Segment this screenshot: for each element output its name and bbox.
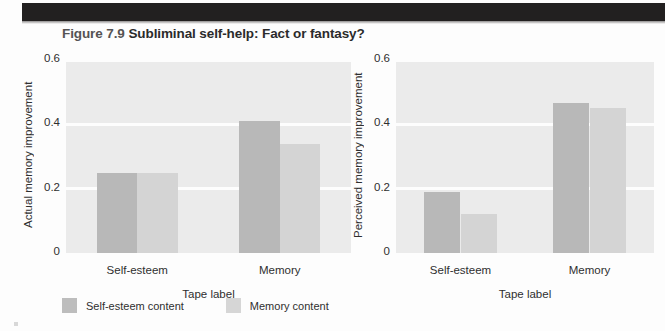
- plot-area-left: [66, 60, 351, 253]
- bar: [239, 121, 280, 253]
- bar: [461, 214, 498, 253]
- y-axis-tick-label: 0.2: [20, 181, 60, 193]
- legend-item-label: Memory content: [250, 300, 329, 312]
- gridline: [396, 60, 654, 62]
- plot-area-right: [396, 60, 654, 253]
- scan-artifact: [14, 322, 18, 326]
- chart-legend: Self-esteem content Memory content: [62, 298, 329, 313]
- legend-swatch-icon: [226, 298, 241, 313]
- x-axis-label-right: Tape label: [396, 288, 654, 300]
- page-title: Figure 7.9 Subliminal self-help: Fact or…: [62, 26, 365, 41]
- figure-title-text: Subliminal self-help: Fact or fantasy?: [128, 26, 364, 41]
- gridline: [66, 123, 351, 126]
- bar: [590, 108, 627, 253]
- x-axis-tick-label: Memory: [525, 264, 654, 276]
- y-axis-tick-label: 0.4: [350, 116, 390, 128]
- bar: [97, 173, 138, 253]
- legend-swatch-icon: [62, 298, 77, 313]
- legend-item-memory-content[interactable]: Memory content: [226, 298, 329, 313]
- y-axis-tick-label: 0.4: [20, 116, 60, 128]
- y-axis-tick-label: 0: [20, 245, 60, 257]
- page-scan-edge-shadow: [22, 21, 665, 24]
- y-axis-tick-label: 0.6: [350, 52, 390, 64]
- legend-item-self-esteem-content[interactable]: Self-esteem content: [62, 298, 184, 313]
- bar: [137, 173, 178, 253]
- x-axis-tick-label: Self-esteem: [396, 264, 525, 276]
- y-axis-label-right: Perceived memory improvement: [352, 58, 364, 252]
- legend-item-label: Self-esteem content: [86, 300, 184, 312]
- y-axis-label-left: Actual memory improvement: [22, 60, 34, 250]
- bar: [553, 103, 590, 253]
- y-axis-tick-label: 0: [350, 245, 390, 257]
- figure-number: Figure 7.9: [62, 26, 125, 41]
- x-axis-tick-label: Self-esteem: [66, 264, 209, 276]
- bar: [280, 144, 321, 253]
- gridline: [66, 60, 351, 62]
- x-axis-tick-label: Memory: [209, 264, 352, 276]
- y-axis-tick-label: 0.2: [350, 181, 390, 193]
- y-axis-tick-label: 0.6: [20, 52, 60, 64]
- page-scan-edge-band: [22, 3, 665, 21]
- bar: [424, 192, 461, 253]
